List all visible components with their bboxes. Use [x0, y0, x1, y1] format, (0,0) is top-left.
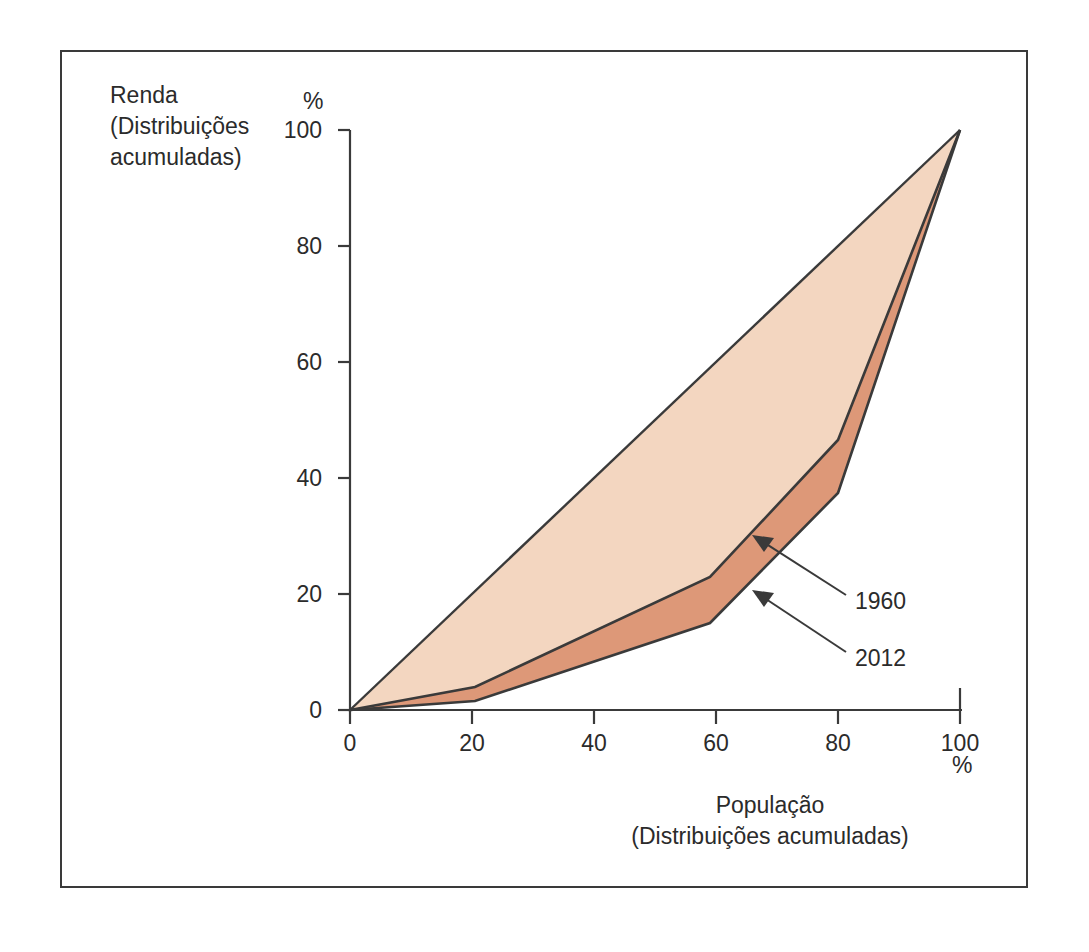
x-tick-label-60: 60	[686, 730, 746, 757]
y-axis-unit-label: %	[303, 88, 323, 115]
y-tick-label-40: 40	[262, 465, 322, 492]
lorenz-curve-figure: Renda (Distribuições acumuladas) Populaç…	[0, 0, 1089, 952]
x-tick-label-100: 100	[930, 730, 990, 757]
x-tick-label-0: 0	[320, 730, 380, 757]
y-tick-label-100: 100	[262, 117, 322, 144]
y-tick-label-80: 80	[262, 233, 322, 260]
y-tick-label-20: 20	[262, 581, 322, 608]
y-tick-label-60: 60	[262, 349, 322, 376]
annotation-label-1960: 1960	[855, 588, 906, 615]
annotation-label-2012: 2012	[855, 645, 906, 672]
y-axis-title: Renda (Distribuições acumuladas)	[110, 80, 249, 173]
leader-line-2012	[760, 595, 846, 652]
x-axis-title: População (Distribuições acumuladas)	[560, 790, 980, 852]
x-tick-label-20: 20	[442, 730, 502, 757]
arrowhead-2012	[752, 590, 774, 607]
x-tick-label-80: 80	[808, 730, 868, 757]
leader-line-1960	[760, 540, 846, 595]
x-tick-label-40: 40	[564, 730, 624, 757]
y-tick-label-0: 0	[262, 697, 322, 724]
